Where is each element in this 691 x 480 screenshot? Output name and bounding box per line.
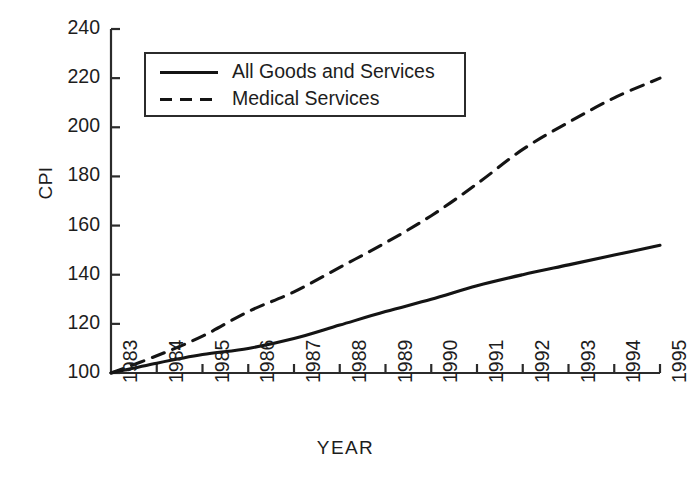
legend-item-all-goods-and-services: All Goods and Services: [160, 59, 435, 85]
y-axis-ticks: [111, 29, 120, 373]
y-tick-label: 240: [42, 16, 100, 39]
x-tick-label: 1984: [165, 340, 188, 383]
x-tick-label: 1994: [622, 340, 645, 383]
x-tick-label: 1987: [302, 340, 325, 383]
legend-swatch-solid-line-icon: [160, 65, 218, 79]
y-tick-label: 160: [42, 213, 100, 236]
y-tick-label: 140: [42, 262, 100, 285]
x-tick-label: 1989: [394, 340, 417, 383]
legend-label-all-goods-and-services: All Goods and Services: [232, 62, 435, 82]
legend-label-medical-services: Medical Services: [232, 89, 379, 109]
y-tick-label: 220: [42, 65, 100, 88]
legend-item-medical-services: Medical Services: [160, 86, 379, 112]
x-tick-label: 1983: [119, 340, 142, 383]
y-tick-label: 180: [42, 163, 100, 186]
x-axis-title: YEAR: [0, 437, 691, 459]
legend-swatch-dashed-line-icon: [160, 92, 218, 106]
x-tick-label: 1985: [211, 340, 234, 383]
y-tick-label: 200: [42, 114, 100, 137]
x-tick-label: 1991: [485, 340, 508, 383]
x-tick-label: 1990: [439, 340, 462, 383]
x-tick-label: 1992: [531, 340, 554, 383]
y-tick-label: 100: [42, 360, 100, 383]
x-tick-label: 1988: [348, 340, 371, 383]
series-line-medical-services: [111, 78, 660, 373]
x-tick-label: 1986: [256, 340, 279, 383]
chart-legend: All Goods and Services Medical Services: [144, 52, 466, 117]
x-tick-label: 1995: [668, 340, 691, 383]
x-tick-label: 1993: [577, 340, 600, 383]
chart-figure: CPI YEAR 100120140160180200220240 198319…: [0, 0, 691, 480]
y-tick-label: 120: [42, 311, 100, 334]
